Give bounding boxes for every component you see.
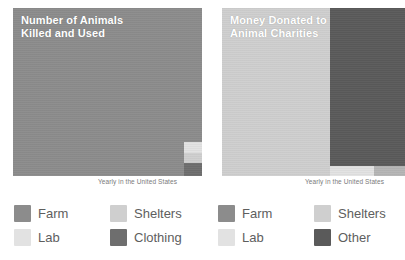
legend-swatch-farm	[14, 205, 31, 222]
legend-label-farm: Farm	[38, 205, 68, 222]
treemap-tile-lab	[184, 142, 202, 153]
treemap-tile-shelters	[184, 153, 202, 163]
legend-item-shelters[interactable]: Shelters	[110, 201, 182, 225]
treemap-tile-clothing	[184, 163, 202, 176]
legend-label-lab: Lab	[242, 229, 264, 246]
treemap-animals-killed-and-used: Number of Animals Killed and Used	[13, 8, 202, 176]
legend-label-lab: Lab	[38, 229, 60, 246]
chart-caption-left: Yearly in the United States	[98, 178, 177, 185]
treemap-money-donated: Money Donated to Animal Charities	[222, 8, 405, 176]
legend-swatch-other	[314, 229, 331, 246]
legend-item-other[interactable]: Other	[314, 225, 371, 249]
chart-caption-right: Yearly in the United States	[305, 178, 384, 185]
chart-title-left: Number of Animals Killed and Used	[21, 14, 123, 40]
legend-item-lab[interactable]: Lab	[218, 225, 304, 249]
legend-item-shelters[interactable]: Shelters	[314, 201, 386, 225]
legend-label-other: Other	[338, 229, 371, 246]
legend-swatch-farm	[218, 205, 235, 222]
legend-item-clothing[interactable]: Clothing	[110, 225, 182, 249]
legend-swatch-lab	[218, 229, 235, 246]
treemap-tile-other	[330, 8, 405, 176]
legend-label-farm: Farm	[242, 205, 272, 222]
chart-panel-animals-killed-and-used: Number of Animals Killed and Used	[13, 8, 202, 176]
legend-swatch-shelters	[110, 205, 127, 222]
chart-title-right: Money Donated to Animal Charities	[230, 14, 327, 40]
legend-item-farm[interactable]: Farm	[14, 201, 100, 225]
chart-panel-money-donated-to-animal-charities: Money Donated to Animal Charities	[222, 8, 405, 176]
treemap-tile-farm	[374, 166, 405, 176]
legend-swatch-lab	[14, 229, 31, 246]
legend-swatch-shelters	[314, 205, 331, 222]
legend-right: Farm Shelters Lab Other	[218, 201, 386, 249]
legend-item-farm[interactable]: Farm	[218, 201, 304, 225]
legend-swatch-clothing	[110, 229, 127, 246]
legend-label-shelters: Shelters	[134, 205, 182, 222]
treemap-tile-lab	[330, 166, 374, 176]
legend-item-lab[interactable]: Lab	[14, 225, 100, 249]
legend-label-clothing: Clothing	[134, 229, 182, 246]
legend-left: Farm Shelters Lab Clothing	[14, 201, 182, 249]
legend-label-shelters: Shelters	[338, 205, 386, 222]
